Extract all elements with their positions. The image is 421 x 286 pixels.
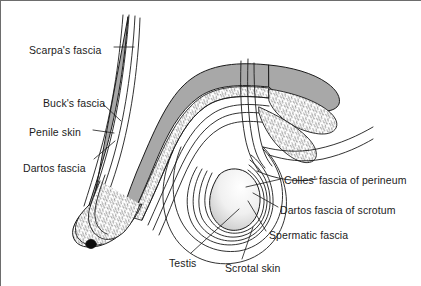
urethral-meatus [86,240,96,249]
label-bucks-fascia: Buck's fascia [43,98,105,109]
label-dartos-fascia-of-scrotum: Dartos fascia of scrotum [280,205,396,216]
label-colles-fascia-of-perineum: Colles' fascia of perineum [284,175,407,186]
label-testis: Testis [169,258,196,269]
label-spermatic-fascia: Spermatic fascia [269,230,348,241]
label-scarpas-fascia: Scarpa's fascia [29,45,101,56]
label-penile-skin: Penile skin [29,127,81,138]
anatomical-figure: Scarpa's fascia Buck's fascia Penile ski… [0,0,421,286]
label-dartos-fascia: Dartos fascia [23,163,86,174]
testis-body [210,169,261,230]
perineal-fascia [259,65,340,163]
label-scrotal-skin: Scrotal skin [225,263,280,274]
